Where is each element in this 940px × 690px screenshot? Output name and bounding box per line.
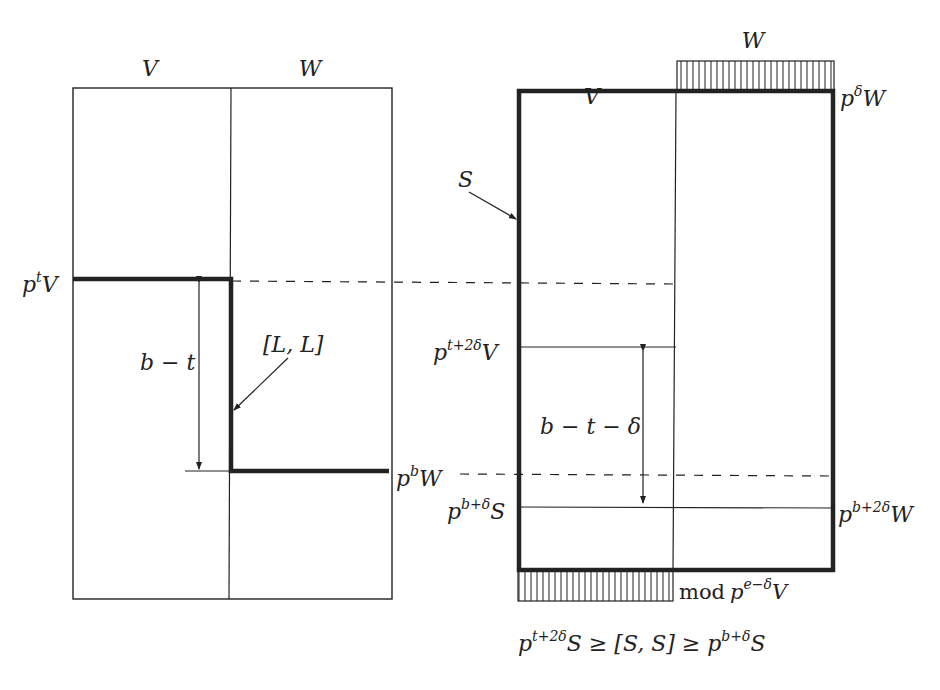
label-pdW: pδW <box>840 83 888 111</box>
right-col-label-w: W <box>742 28 767 53</box>
label-ptV: ptV <box>22 269 60 297</box>
label-bracket-LL: [L, L] <box>263 332 324 357</box>
label-pbW: pbW <box>396 463 444 491</box>
left-panel: V W b − t ptV [L, L] pbW <box>22 56 444 599</box>
level-line-pbdS <box>519 507 833 508</box>
label-mod: modpe−δV <box>679 576 789 604</box>
dashed-level-ptV <box>232 281 676 284</box>
left-col-label-w: W <box>299 56 324 81</box>
left-distance-label: b − t <box>140 350 196 375</box>
right-col-label-v: V <box>584 84 602 109</box>
hatched-region-bottom <box>518 570 673 601</box>
bracket-LL-pointer-arrow <box>234 358 288 410</box>
left-lattice-boundary <box>73 279 389 471</box>
label-pbdS: pb+δS <box>447 496 505 524</box>
S-pointer-arrow <box>469 192 516 219</box>
right-distance-label: b − t − δ <box>540 414 641 439</box>
right-panel: V W b − t − δ S pδW pt+2δV pb+δS pb+2δW … <box>433 28 915 604</box>
label-S: S <box>458 167 473 192</box>
label-pt2dV: pt+2δV <box>433 337 500 365</box>
inequality-caption: pt+2δS ≥ [S, S] ≥ pb+δS <box>518 628 766 656</box>
left-col-label-v: V <box>142 56 160 81</box>
dashed-level-pbW <box>460 474 830 476</box>
hatched-region-top <box>677 61 834 91</box>
right-column-divider <box>673 91 676 570</box>
label-pb2dW: pb+2δW <box>838 499 915 527</box>
lattice-diagram: V W b − t ptV [L, L] pbW V W <box>0 0 940 690</box>
